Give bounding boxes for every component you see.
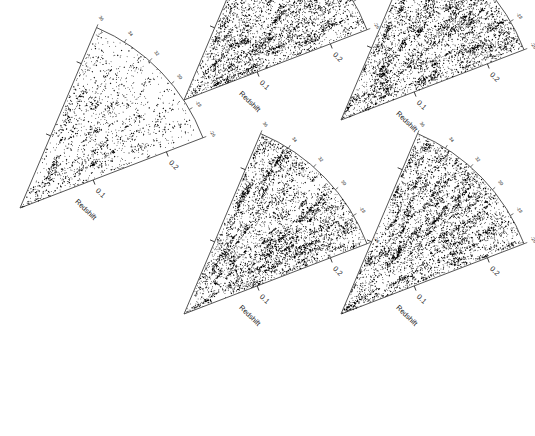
radial-tick-label: 0.1: [258, 292, 272, 306]
radial-axis-title: Redshift: [394, 303, 419, 328]
radial-tick: [367, 239, 372, 244]
angular-tick-label: -26: [530, 235, 535, 244]
radial-tick: [367, 45, 372, 50]
angular-tick-label: -26: [530, 41, 535, 50]
radial-tick: [165, 152, 170, 157]
radial-tick-label: 0.1: [415, 292, 429, 306]
angular-tick-label: -28: [515, 12, 523, 21]
radial-tick: [486, 64, 491, 69]
radial-tick-label: 0.2: [488, 70, 502, 84]
radial-axis-title: Redshift: [237, 303, 262, 328]
radial-tick: [77, 60, 82, 65]
radial-tick: [256, 72, 261, 77]
radial-tick: [46, 133, 51, 138]
radial-axis-title: Redshift: [237, 89, 262, 114]
radial-tick: [486, 258, 491, 263]
radial-tick-label: 0.1: [415, 98, 429, 112]
radial-tick: [256, 286, 261, 291]
radial-axis-title: Redshift: [394, 109, 419, 134]
radial-tick: [210, 239, 215, 244]
galaxy-point-cloud: [0, 21, 208, 257]
radial-tick: [329, 44, 334, 49]
radial-tick: [413, 92, 418, 97]
angular-tick: [96, 24, 99, 27]
angular-tick: [171, 81, 174, 84]
radial-tick: [413, 286, 418, 291]
radial-axis-title: Redshift: [73, 197, 98, 222]
angular-tick-label: 34: [127, 30, 134, 37]
angular-tick-label: 36: [98, 15, 105, 22]
radial-tick-label: 0.1: [94, 186, 108, 200]
radial-tick: [210, 25, 215, 30]
radial-tick: [329, 258, 334, 263]
angular-tick: [149, 58, 152, 61]
radial-tick-label: 0.2: [488, 264, 502, 278]
angular-tick: [524, 48, 527, 51]
angular-tick: [524, 242, 527, 245]
mock-catalogue-wedge-4: 0.10.2Redshift36343230-28-26: [335, 218, 535, 433]
radial-tick: [92, 180, 97, 185]
angular-tick-label: 32: [153, 50, 160, 57]
radial-tick-label: 0.1: [258, 78, 272, 92]
